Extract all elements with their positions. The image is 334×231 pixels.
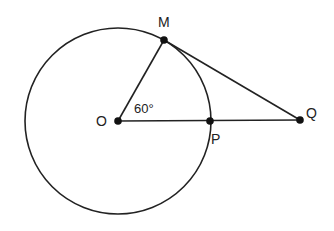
label-p: P xyxy=(211,131,220,147)
label-m: M xyxy=(158,14,170,30)
segment-mq xyxy=(164,40,300,120)
angle-label: 60° xyxy=(134,101,154,116)
point-q xyxy=(296,116,304,124)
diagram-svg: O M P Q 60° xyxy=(0,0,334,231)
geometry-diagram: O M P Q 60° xyxy=(0,0,334,231)
label-q: Q xyxy=(306,105,317,121)
label-o: O xyxy=(96,113,107,129)
point-o xyxy=(114,117,122,125)
point-p xyxy=(206,117,214,125)
point-m xyxy=(160,36,168,44)
